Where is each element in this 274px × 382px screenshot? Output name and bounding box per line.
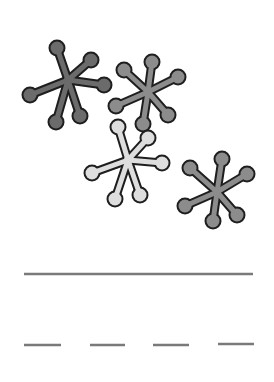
writing-lines	[24, 274, 254, 345]
worksheet-canvas	[0, 0, 274, 382]
jack-medium-2-icon	[177, 151, 256, 230]
jacks-picture	[22, 40, 256, 230]
jack-dark-icon	[22, 40, 113, 131]
jack-light-icon	[84, 119, 171, 208]
